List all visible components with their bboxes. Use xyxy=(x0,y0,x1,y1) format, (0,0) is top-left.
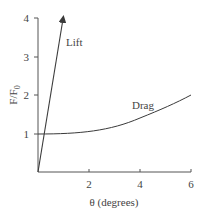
y-axis-title-sub: 0 xyxy=(13,85,22,89)
x-axis-title: θ (degrees) xyxy=(90,196,139,209)
x-tick-2: 2 xyxy=(86,178,92,190)
y-axis-title: F/F0 xyxy=(7,85,22,104)
svg-text:F/F0: F/F0 xyxy=(7,85,22,104)
y-tick-1: 1 xyxy=(24,128,30,140)
drag-label: Drag xyxy=(132,99,154,111)
y-tick-4: 4 xyxy=(24,12,30,24)
lift-line xyxy=(38,19,63,172)
lift-label: Lift xyxy=(66,36,83,48)
drag-curve xyxy=(38,95,191,134)
y-tick-2: 2 xyxy=(24,89,30,101)
x-tick-4: 4 xyxy=(137,178,143,190)
x-tick-6: 6 xyxy=(188,178,194,190)
chart: 4 3 2 1 2 4 6 θ (degrees) F/F0 Lift Drag xyxy=(0,0,203,218)
y-axis: 4 3 2 1 xyxy=(24,12,39,172)
y-axis-title-main: F/F xyxy=(7,89,19,104)
y-tick-3: 3 xyxy=(24,51,30,63)
x-axis: 2 4 6 θ (degrees) xyxy=(38,169,194,209)
